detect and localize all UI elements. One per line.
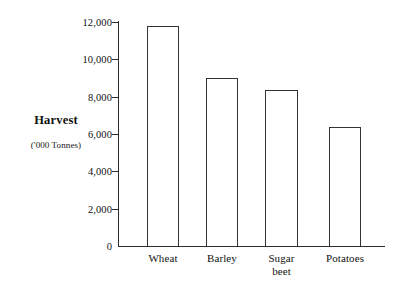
x-axis-tick-label-line: beet: [246, 265, 318, 278]
bar-barley: [206, 78, 238, 246]
plot-area: WheatBarleySugarbeetPotatoes: [0, 0, 408, 296]
x-axis-line: [118, 246, 385, 247]
y-axis-tick-mark: [112, 134, 119, 135]
bar-wheat: [147, 26, 179, 246]
y-axis-tick-mark: [112, 171, 119, 172]
x-axis-tick-label: Sugarbeet: [246, 252, 318, 278]
y-axis-tick-mark: [112, 209, 119, 210]
x-axis-tick-label-line: Sugar: [246, 252, 318, 265]
x-axis-tick-label-line: Potatoes: [309, 252, 381, 265]
y-axis-tick-mark: [112, 97, 119, 98]
bar-potatoes: [329, 127, 361, 246]
bar-chart-figure: Harvest ('000 Tonnes) 12,00010,0008,0006…: [0, 0, 408, 296]
y-axis-tick-mark: [112, 59, 119, 60]
y-axis-tick-mark: [112, 22, 119, 23]
bar-sugar-beet: [265, 90, 298, 246]
x-axis-tick-label: Potatoes: [309, 252, 381, 265]
